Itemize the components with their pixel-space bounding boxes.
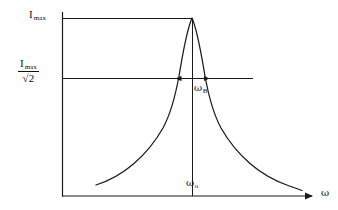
bandwidth-label: ωB bbox=[194, 83, 207, 95]
half-power-numerator-base: I bbox=[20, 57, 24, 69]
plot-canvas bbox=[0, 0, 338, 210]
x-axis-symbol: ω bbox=[321, 187, 329, 198]
bandwidth-subscript: B bbox=[203, 87, 208, 95]
peak-value-subscript: max bbox=[34, 14, 47, 22]
x-axis-label: ω bbox=[321, 188, 329, 198]
half-power-numerator: Imax bbox=[18, 58, 39, 72]
resonance-frequency-symbol: ω bbox=[186, 177, 194, 188]
resonance-curve-figure: Imax Imax √2 ωB ωo ω bbox=[0, 0, 338, 210]
half-power-value-label: Imax √2 bbox=[18, 58, 39, 84]
resonance-frequency-label: ωo bbox=[186, 178, 198, 190]
resonance-curve bbox=[96, 18, 302, 191]
half-power-numerator-subscript: max bbox=[25, 63, 37, 71]
bandwidth-symbol: ω bbox=[194, 82, 202, 93]
half-power-denominator: √2 bbox=[18, 72, 39, 84]
peak-value-base: I bbox=[29, 8, 33, 20]
resonance-frequency-subscript: o bbox=[195, 182, 199, 190]
peak-value-label: Imax bbox=[29, 9, 46, 22]
